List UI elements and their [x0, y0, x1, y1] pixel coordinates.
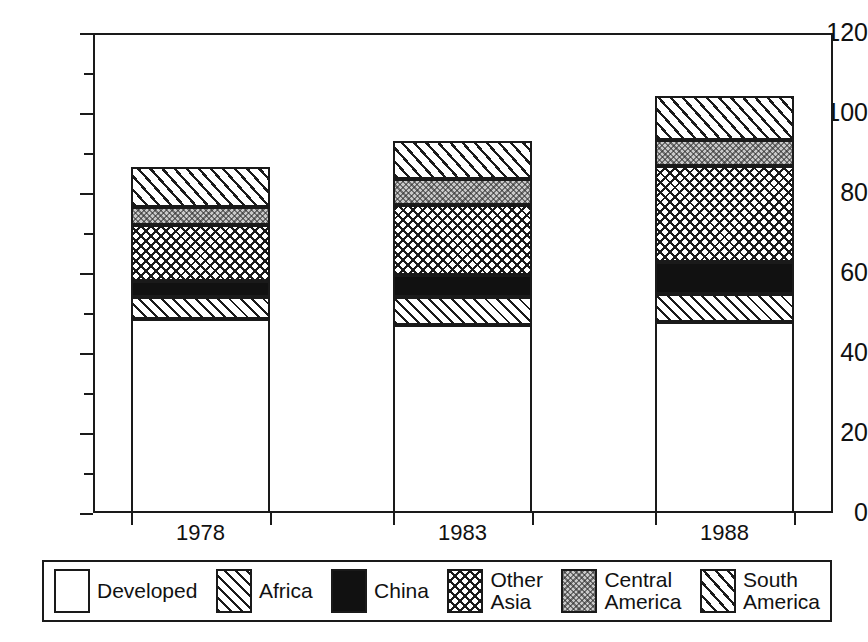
x-tick-1983-right [532, 513, 534, 525]
x-tick-1988-right [794, 513, 796, 525]
y-tick-60 [80, 273, 93, 275]
swatch-developed-icon [54, 569, 90, 613]
legend-label-africa: Africa [259, 580, 313, 602]
swatch-china-icon [331, 569, 367, 613]
y-tick-50 [84, 313, 93, 315]
legend-item-africa[interactable]: Africa [216, 562, 313, 620]
bar-1978-segment-other-asia [131, 225, 270, 281]
y-tick-70 [84, 233, 93, 235]
y-tick-100 [80, 113, 93, 115]
x-tick-1978-right [270, 513, 272, 525]
bar-1983-segment-central-america [393, 179, 532, 205]
bar-1978-segment-south-america [131, 167, 270, 207]
bar-1978-segment-developed [131, 319, 270, 513]
x-axis-label-1978: 1978 [131, 521, 270, 545]
legend-label-developed: Developed [97, 580, 197, 602]
legend-item-south-america[interactable]: South America [700, 562, 820, 620]
y-tick-0 [80, 513, 93, 515]
bar-1988-segment-africa [655, 294, 794, 322]
bar-1978-segment-africa [131, 297, 270, 319]
legend-item-developed[interactable]: Developed [54, 562, 197, 620]
y-tick-30 [84, 393, 93, 395]
legend-label-central-america: Central America [604, 569, 681, 613]
y-tick-80 [80, 193, 93, 195]
bar-1978[interactable] [131, 167, 270, 513]
swatch-central-america-icon [561, 569, 597, 613]
legend-item-china[interactable]: China [331, 562, 429, 620]
bar-1988-segment-china [655, 262, 794, 294]
swatch-africa-icon [216, 569, 252, 613]
bar-1983-segment-africa [393, 297, 532, 325]
x-axis-label-1988: 1988 [655, 521, 794, 545]
bar-1983-segment-china [393, 275, 532, 297]
bar-1978-segment-central-america [131, 207, 270, 225]
y-tick-10 [84, 473, 93, 475]
y-tick-20 [80, 433, 93, 435]
bar-1983-segment-south-america [393, 141, 532, 179]
y-tick-110 [84, 73, 93, 75]
bar-1983-segment-other-asia [393, 205, 532, 275]
y-tick-40 [80, 353, 93, 355]
legend-item-central-america[interactable]: Central America [561, 562, 681, 620]
bar-1988-segment-south-america [655, 96, 794, 140]
swatch-other-asia-icon [447, 569, 483, 613]
bar-1988-segment-developed [655, 322, 794, 513]
legend-item-other-asia[interactable]: Other Asia [447, 562, 543, 620]
bar-1988[interactable] [655, 96, 794, 513]
bar-1983-segment-developed [393, 325, 532, 513]
stacked-bar-chart: 120 100 80 60 40 20 0 [0, 0, 868, 642]
y-tick-90 [84, 153, 93, 155]
bar-1983[interactable] [393, 141, 532, 513]
y-tick-120 [80, 33, 93, 35]
legend-label-china: China [374, 580, 429, 602]
legend: Developed Africa China Other Asia Centra… [42, 560, 832, 622]
legend-label-other-asia: Other Asia [490, 569, 543, 613]
bar-1978-segment-china [131, 281, 270, 297]
x-axis-label-1983: 1983 [393, 521, 532, 545]
bar-1988-segment-central-america [655, 140, 794, 166]
swatch-south-america-icon [700, 569, 736, 613]
legend-label-south-america: South America [743, 569, 820, 613]
bar-1988-segment-other-asia [655, 166, 794, 262]
